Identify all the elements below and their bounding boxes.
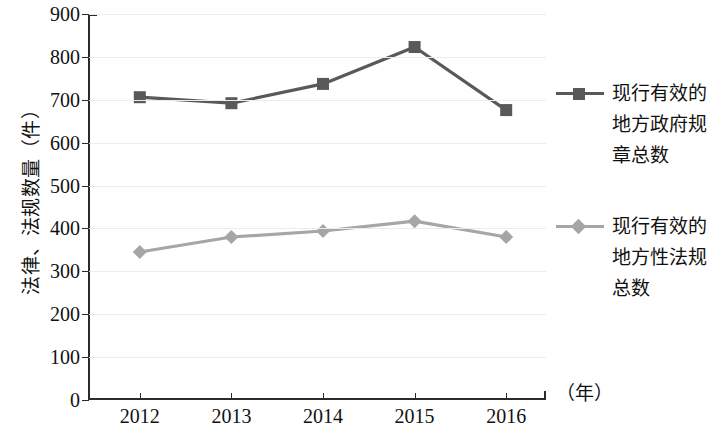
- legend-label-line: 总数: [612, 273, 724, 304]
- y-axis-tick-label: 800: [22, 47, 80, 67]
- gridline: [88, 271, 546, 272]
- y-axis-tick-mark: [82, 271, 89, 272]
- y-axis-tick-label: 300: [22, 261, 80, 281]
- legend-square-marker-icon: [573, 88, 585, 100]
- y-axis-tick-labels: 0100200300400500600700800900: [20, 0, 80, 425]
- legend-label: 现行有效的地方政府规章总数: [612, 78, 724, 171]
- gridline: [88, 228, 546, 229]
- x-axis-unit-label: （年）: [556, 382, 613, 404]
- gridline: [88, 143, 546, 144]
- legend-entry[interactable]: 现行有效的地方性法规总数: [556, 211, 724, 304]
- data-point-marker: [317, 78, 329, 90]
- y-axis-tick-mark: [82, 357, 89, 358]
- line-chart: 法律、法规数量（件） 0100200300400500600700800900 …: [0, 0, 725, 425]
- legend-label: 现行有效的地方性法规总数: [612, 211, 724, 304]
- legend-label-line: 地方政府规: [612, 109, 724, 140]
- x-axis-tick-label: 2015: [370, 404, 460, 425]
- y-axis-tick-mark: [82, 314, 89, 315]
- series-2: [133, 214, 513, 259]
- x-axis-tick-mark: [506, 393, 507, 400]
- x-axis-tick-label: 2016: [461, 404, 551, 425]
- y-axis-tick-label: 900: [22, 4, 80, 24]
- legend-entry[interactable]: 现行有效的地方政府规章总数: [556, 78, 724, 171]
- y-axis-tick-label: 400: [22, 218, 80, 238]
- x-axis-tick-mark: [415, 393, 416, 400]
- legend-label-line: 章总数: [612, 140, 724, 171]
- data-point-marker: [133, 245, 147, 259]
- x-axis-tick-mark: [140, 393, 141, 400]
- y-axis-tick-label: 500: [22, 176, 80, 196]
- y-axis-tick-mark: [82, 14, 89, 15]
- data-point-marker: [134, 91, 146, 103]
- series-1: [134, 41, 512, 116]
- x-axis-tick-label: 2013: [186, 404, 276, 425]
- legend-label-line: 现行有效的: [612, 78, 724, 109]
- gridline: [88, 57, 546, 58]
- y-axis-tick-mark: [82, 100, 89, 101]
- x-axis-tick-mark: [231, 393, 232, 400]
- x-axis-tick-label: 2012: [95, 404, 185, 425]
- legend-swatch: [556, 218, 604, 234]
- gridline: [88, 14, 546, 15]
- gridline: [88, 186, 546, 187]
- x-axis-tick-label: 2014: [278, 404, 368, 425]
- y-axis-tick-mark: [82, 57, 89, 58]
- legend-label-line: 现行有效的: [612, 211, 724, 242]
- y-axis-tick-label: 200: [22, 304, 80, 324]
- data-point-marker: [499, 230, 513, 244]
- legend-swatch: [556, 85, 604, 101]
- legend-label-line: 地方性法规: [612, 242, 724, 273]
- y-axis-tick-mark: [82, 400, 89, 401]
- y-axis-tick-mark: [82, 143, 89, 144]
- y-axis-tick-label: 100: [22, 347, 80, 367]
- y-axis-tick-mark: [82, 228, 89, 229]
- data-point-marker: [409, 41, 421, 53]
- gridline: [88, 100, 546, 101]
- y-axis-tick-label: 0: [22, 390, 80, 410]
- data-point-marker: [500, 104, 512, 116]
- plot-area: [88, 14, 546, 400]
- y-axis-tick-label: 700: [22, 90, 80, 110]
- gridline: [88, 357, 546, 358]
- data-point-marker: [224, 230, 238, 244]
- y-axis-tick-mark: [82, 186, 89, 187]
- chart-legend: 现行有效的地方政府规章总数现行有效的地方性法规总数: [556, 78, 724, 344]
- data-point-marker: [316, 224, 330, 238]
- x-axis-tick-mark: [323, 393, 324, 400]
- data-point-marker: [408, 214, 422, 228]
- gridline: [88, 314, 546, 315]
- y-axis-tick-label: 600: [22, 133, 80, 153]
- legend-diamond-marker-icon: [571, 219, 587, 235]
- series-layer: [88, 14, 546, 400]
